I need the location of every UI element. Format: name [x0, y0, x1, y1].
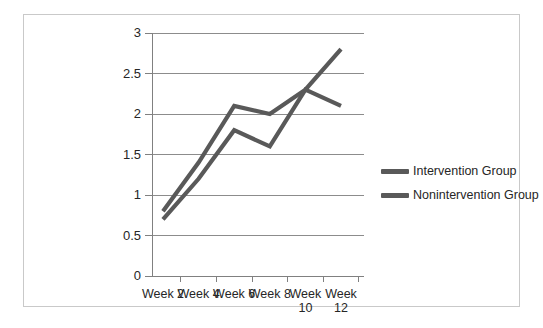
y-axis-tick-label: 2.5: [101, 67, 141, 80]
y-axis-tick-label: 2: [101, 107, 141, 120]
line-chart-plot: [24, 15, 519, 306]
legend-swatch-icon: [381, 169, 409, 174]
legend-item[interactable]: Nonintervention Group: [381, 188, 539, 202]
y-axis-tick-label: 0.5: [101, 229, 141, 242]
y-axis-tick-label: 1.5: [101, 148, 141, 161]
y-axis-tick-label: 1: [101, 188, 141, 201]
chart-container: 00.511.522.53 Week 2Week 4Week 6Week 8We…: [23, 14, 520, 307]
legend-item[interactable]: Intervention Group: [381, 164, 517, 178]
gridlines-group: [152, 33, 364, 276]
x-axis-tick-label: Week 12: [323, 287, 359, 316]
series-lines-group: [163, 49, 341, 219]
y-axis-tick-label: 3: [101, 26, 141, 39]
legend-item-label: Intervention Group: [413, 164, 517, 178]
x-axis-tick-label: Week 10: [287, 287, 323, 316]
y-axis-tick-label: 0: [101, 269, 141, 282]
legend-item-label: Nonintervention Group: [413, 188, 539, 202]
axes-group: [145, 33, 359, 282]
legend-swatch-icon: [381, 193, 409, 198]
